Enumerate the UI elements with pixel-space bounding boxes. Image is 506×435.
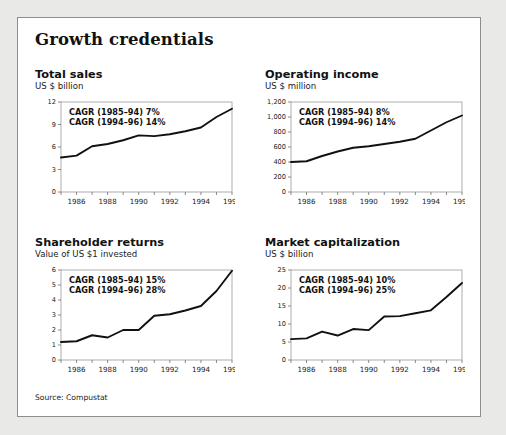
y-tick-label: 12 [48, 98, 56, 106]
x-tick-label: 1992 [391, 365, 409, 374]
x-tick-label: 1988 [329, 365, 348, 374]
x-tick-label: 1986 [68, 197, 87, 206]
panel-subtitle: US $ billion [265, 249, 465, 260]
y-tick-label: 5 [282, 338, 286, 346]
cagr-annotation: CAGR (1985–94) 15% [69, 275, 165, 285]
panel-title: Operating income [265, 68, 465, 81]
y-tick-label: 3 [52, 166, 56, 174]
x-tick-label: 1988 [99, 365, 118, 374]
y-tick-label: 800 [273, 128, 286, 136]
x-tick-label: 1990 [130, 365, 149, 374]
y-tick-label: 5 [52, 281, 56, 289]
panel-subtitle: US $ billion [35, 81, 235, 92]
x-tick-label: 1992 [161, 197, 179, 206]
x-tick-label: 1988 [99, 197, 118, 206]
panel-title: Shareholder returns [35, 236, 235, 249]
y-tick-label: 25 [278, 266, 286, 274]
x-tick-label: 1990 [130, 197, 149, 206]
y-tick-label: 1,000 [267, 113, 286, 121]
y-tick-label: 4 [52, 296, 56, 304]
cagr-annotation: CAGR (1994–96) 14% [299, 117, 395, 127]
chart-svg: 0123456198619881990199219941996CAGR (198… [35, 264, 235, 382]
x-tick-label: 1996 [223, 197, 235, 206]
y-tick-label: 6 [52, 143, 56, 151]
y-tick-label: 0 [52, 356, 56, 364]
x-tick-label: 1990 [360, 365, 379, 374]
y-tick-label: 2 [52, 326, 56, 334]
panel-operating-income: Operating income US $ million 0200400600… [265, 68, 465, 214]
panel-title: Total sales [35, 68, 235, 81]
y-tick-label: 0 [282, 356, 286, 364]
panel-shareholder-returns: Shareholder returns Value of US $1 inves… [35, 236, 235, 382]
chart-svg: 036912198619881990199219941996CAGR (1985… [35, 96, 235, 214]
x-tick-label: 1986 [298, 365, 317, 374]
x-tick-label: 1988 [329, 197, 348, 206]
x-tick-label: 1992 [391, 197, 409, 206]
y-tick-label: 9 [52, 121, 56, 129]
x-tick-label: 1994 [422, 197, 441, 206]
exhibit-title: Growth credentials [35, 30, 214, 49]
cagr-annotation: CAGR (1985–94) 7% [69, 107, 160, 117]
cagr-annotation: CAGR (1985–94) 10% [299, 275, 395, 285]
y-tick-label: 10 [278, 320, 286, 328]
cagr-annotation: CAGR (1994–96) 14% [69, 117, 165, 127]
x-tick-label: 1994 [192, 365, 211, 374]
y-tick-label: 6 [52, 266, 56, 274]
y-tick-label: 1 [52, 341, 56, 349]
x-tick-label: 1996 [223, 365, 235, 374]
source-note: Source: Compustat [35, 393, 108, 402]
x-tick-label: 1994 [192, 197, 211, 206]
x-tick-label: 1986 [298, 197, 317, 206]
panel-market-capitalization: Market capitalization US $ billion 05101… [265, 236, 465, 382]
panel-total-sales: Total sales US $ billion 036912198619881… [35, 68, 235, 214]
y-tick-label: 15 [278, 302, 286, 310]
y-tick-label: 0 [282, 188, 286, 196]
chart-operating-income: 02004006008001,0001,20019861988199019921… [265, 96, 465, 214]
y-tick-label: 0 [52, 188, 56, 196]
chart-svg: 02004006008001,0001,20019861988199019921… [265, 96, 465, 214]
exhibit-card: Growth credentials Total sales US $ bill… [17, 17, 481, 417]
y-tick-label: 1,200 [267, 98, 286, 106]
y-tick-label: 20 [278, 284, 286, 292]
x-tick-label: 1996 [453, 365, 465, 374]
cagr-annotation: CAGR (1985–94) 8% [299, 107, 390, 117]
x-tick-label: 1994 [422, 365, 441, 374]
panel-subtitle: US $ million [265, 81, 465, 92]
cagr-annotation: CAGR (1994–96) 25% [299, 285, 395, 295]
cagr-annotation: CAGR (1994–96) 28% [69, 285, 165, 295]
y-tick-label: 600 [273, 143, 286, 151]
chart-svg: 0510152025198619881990199219941996CAGR (… [265, 264, 465, 382]
y-tick-label: 3 [52, 311, 56, 319]
x-tick-label: 1986 [68, 365, 87, 374]
panel-title: Market capitalization [265, 236, 465, 249]
x-tick-label: 1990 [360, 197, 379, 206]
panel-subtitle: Value of US $1 invested [35, 249, 235, 260]
x-tick-label: 1996 [453, 197, 465, 206]
x-tick-label: 1992 [161, 365, 179, 374]
chart-shareholder-returns: 0123456198619881990199219941996CAGR (198… [35, 264, 235, 382]
y-tick-label: 400 [273, 158, 286, 166]
chart-market-capitalization: 0510152025198619881990199219941996CAGR (… [265, 264, 465, 382]
y-tick-label: 200 [273, 173, 286, 181]
chart-total-sales: 036912198619881990199219941996CAGR (1985… [35, 96, 235, 214]
